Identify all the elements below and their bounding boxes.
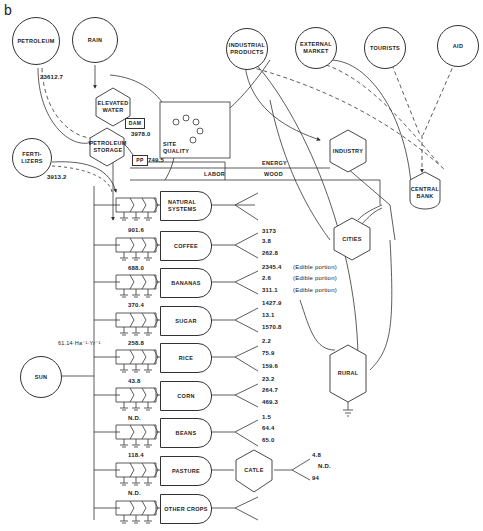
beans-output-2: 64.4 xyxy=(262,425,274,431)
sugar-input-value: 370.4 xyxy=(128,302,144,308)
coffee-output-1: 3173 xyxy=(262,228,276,234)
bananas-input-value: 688.0 xyxy=(128,265,144,271)
crop-beans: BEANS xyxy=(160,418,212,448)
tourists-source: TOURISTS xyxy=(364,27,406,69)
aid-label: AID xyxy=(453,43,463,50)
coffee-output-2: 3.8 xyxy=(262,238,271,244)
petroleum-source: PETROLEUM xyxy=(12,17,60,65)
coffee-input-value: 901.6 xyxy=(128,227,144,233)
fertilizers-label: FERTI- LIZERS xyxy=(17,151,47,165)
crop-coffee: COFFEE xyxy=(160,231,212,261)
industrial-products-label: INDUSTRIAL PRODUCTS xyxy=(228,42,266,56)
corn-output-2: 264.7 xyxy=(262,387,278,393)
external-market-source: EXTERNAL MARKET xyxy=(295,27,337,69)
industry-label: INDUSTRY xyxy=(330,148,366,155)
crop-label: CORN xyxy=(177,393,194,400)
central-bank-label: CENTRAL BANK xyxy=(408,186,442,200)
catle-label: CATLE xyxy=(236,467,272,474)
rice-input-value: 258.8 xyxy=(128,340,144,346)
catle-output-2: N.D. xyxy=(318,463,331,469)
rain-source: RAIN xyxy=(72,17,118,63)
petroleum-label: PETROLEUM xyxy=(17,38,54,45)
bananas-note-3: (Edible portion) xyxy=(293,287,337,293)
crop-bananas: BANANAS xyxy=(160,268,212,298)
crop-other-crops: OTHER CROPS xyxy=(160,494,212,524)
rice-output-2: 75.9 xyxy=(262,350,274,356)
bananas-output-2: 2.6 xyxy=(262,275,271,281)
crop-label: SUGAR xyxy=(175,318,196,325)
sun-label: SUN xyxy=(35,374,48,381)
crop-label: BANANAS xyxy=(171,280,201,287)
pp-label: PP xyxy=(136,157,143,164)
crop-sugar: SUGAR xyxy=(160,306,212,336)
sugar-output-1: 1427.9 xyxy=(262,300,282,306)
energy-label: ENERGY xyxy=(262,160,287,167)
crop-rice: RICE xyxy=(160,343,212,373)
sun-flow-value: 61.14·Ha⁻¹·Yr⁻¹ xyxy=(58,340,101,346)
dam-flow-value: 3978.0 xyxy=(131,131,151,137)
corn-input-value: 43.8 xyxy=(128,378,140,384)
sun-source: SUN xyxy=(20,356,62,398)
coffee-output-3: 262.8 xyxy=(262,250,278,256)
bananas-note-2: (Edible portion) xyxy=(293,275,337,281)
petroleum-flow-value: 23612.7 xyxy=(40,74,63,80)
bananas-output-1: 2345.4 xyxy=(262,264,282,270)
other-crops-input-value: N.D. xyxy=(128,490,141,496)
crop-label: NATURAL SYSTEMS xyxy=(168,199,204,213)
bananas-output-3: 311.1 xyxy=(262,287,278,293)
external-market-label: EXTERNAL MARKET xyxy=(298,41,334,55)
crop-pasture: PASTURE xyxy=(160,456,212,486)
pasture-input-value: 118.4 xyxy=(128,452,144,458)
crop-label: OTHER CROPS xyxy=(164,506,208,513)
beans-input-value: N.D. xyxy=(128,415,141,421)
wood-label: WOOD xyxy=(264,171,283,178)
rain-label: RAIN xyxy=(88,37,103,44)
beans-output-3: 65.0 xyxy=(262,437,274,443)
sugar-output-2: 13.1 xyxy=(262,312,274,318)
pp-box: PP xyxy=(132,155,148,166)
dam-box: DAM xyxy=(125,118,145,129)
crop-label: COFFEE xyxy=(174,243,198,250)
sugar-output-3: 1570.8 xyxy=(262,324,282,330)
labor-label: LABOR xyxy=(204,171,225,178)
rural-label: RURAL xyxy=(330,370,366,377)
catle-output-3: 94 xyxy=(312,475,319,481)
fertilizers-source: FERTI- LIZERS xyxy=(12,138,52,178)
crop-label: PASTURE xyxy=(172,468,200,475)
industrial-products-source: INDUSTRIAL PRODUCTS xyxy=(226,28,268,70)
crop-label: BEANS xyxy=(176,430,197,437)
site-quality-label: SITE QUALITY xyxy=(163,141,203,155)
catle-output-1: 4.8 xyxy=(312,452,321,458)
dam-label: DAM xyxy=(129,120,141,127)
rice-output-3: 159.6 xyxy=(262,363,278,369)
petroleum-storage-label: PETROLEUM STORAGE xyxy=(88,140,128,154)
crop-label: RICE xyxy=(179,355,193,362)
pp-flow-value: 749.5 xyxy=(148,157,164,163)
fertilizers-flow-value: 3913.2 xyxy=(47,174,67,180)
tourists-label: TOURISTS xyxy=(370,45,400,52)
elevated-water-label: ELEVATED WATER xyxy=(96,100,130,114)
cities-label: CITIES xyxy=(334,236,370,243)
corn-output-3: 469.3 xyxy=(262,399,278,405)
beans-output-1: 1.5 xyxy=(262,414,271,420)
rice-output-1: 2.2 xyxy=(262,338,271,344)
aid-source: AID xyxy=(437,25,479,67)
crop-corn: CORN xyxy=(160,381,212,411)
bananas-note-1: (Edible portion) xyxy=(293,264,337,270)
crop-natural-systems: NATURAL SYSTEMS xyxy=(160,191,212,221)
flow-lines xyxy=(0,0,483,531)
corn-output-1: 23.2 xyxy=(262,376,274,382)
